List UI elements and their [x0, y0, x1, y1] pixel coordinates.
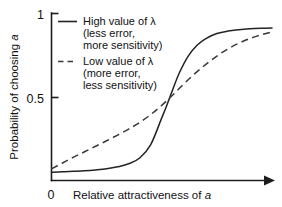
- x-axis-arrow-icon: [264, 176, 275, 186]
- series-line-low-lambda: [52, 32, 273, 169]
- x-tick-label-0: 0: [48, 188, 55, 202]
- figure-container: 1 0.5 0 Relative attractiveness of a Pro…: [0, 0, 282, 207]
- legend-label-low-2: less sensitivity): [83, 79, 157, 91]
- y-tick-label-1: 1: [37, 8, 44, 22]
- y-axis-title-main: Probability of choosing: [8, 41, 20, 160]
- legend: High value of λ (less error, more sensit…: [58, 15, 162, 91]
- y-tick-label-0-5: 0.5: [27, 92, 44, 106]
- x-axis-title-main: Relative attractiveness of: [73, 189, 205, 201]
- legend-label-high-2: more sensitivity): [83, 39, 162, 51]
- chart-canvas: 1 0.5 0 Relative attractiveness of a Pro…: [0, 0, 282, 207]
- x-axis-title-variable: a: [205, 189, 211, 201]
- legend-label-high-1: (less error,: [83, 27, 135, 39]
- y-axis-title-variable: a: [8, 34, 20, 40]
- legend-label-high-0: High value of λ: [83, 15, 156, 27]
- y-axis-title: Probability of choosing a: [8, 34, 20, 159]
- x-axis-title: Relative attractiveness of a: [73, 189, 211, 201]
- legend-label-low-0: Low value of λ: [83, 55, 154, 67]
- legend-label-low-1: (more error,: [83, 67, 140, 79]
